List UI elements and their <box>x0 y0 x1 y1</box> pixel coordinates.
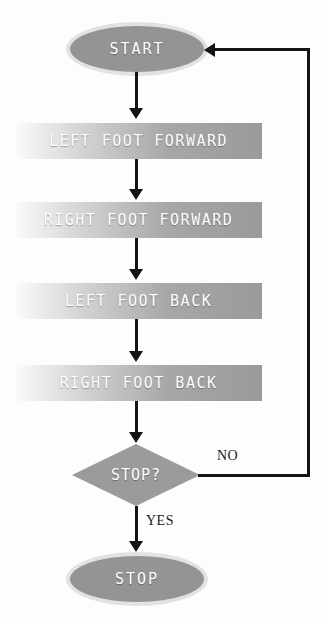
edge-step4-to-decision-arrow <box>129 432 143 443</box>
edge-start-to-step1-line <box>135 72 138 110</box>
node-decision[interactable]: STOP? <box>72 444 200 506</box>
edge-step2-to-step3-arrow <box>129 269 143 280</box>
node-decision-label: STOP? <box>111 466 161 484</box>
node-step1-label: LEFT FOOT FORWARD <box>49 132 228 150</box>
flowchart-canvas: START LEFT FOOT FORWARD RIGHT FOOT FORWA… <box>0 0 326 623</box>
edge-yes-line <box>135 506 138 543</box>
edge-no-horizontal-top <box>215 48 310 51</box>
node-step3[interactable]: LEFT FOOT BACK <box>15 283 262 319</box>
node-start-label: START <box>109 40 164 58</box>
node-step4[interactable]: RIGHT FOOT BACK <box>15 365 262 401</box>
edge-no-vertical <box>307 48 310 477</box>
edge-step3-to-step4-arrow <box>129 351 143 362</box>
edge-step4-to-decision-line <box>135 401 138 434</box>
edge-label-yes: YES <box>146 513 174 529</box>
node-step2-label: RIGHT FOOT FORWARD <box>44 211 234 229</box>
node-step3-label: LEFT FOOT BACK <box>65 292 212 310</box>
edge-no-horizontal-bottom <box>198 474 310 477</box>
edge-step3-to-step4-line <box>135 319 138 353</box>
edge-yes-arrow <box>129 541 143 552</box>
edge-no-arrow <box>204 43 215 57</box>
edge-step1-to-step2-arrow <box>129 189 143 200</box>
node-step4-label: RIGHT FOOT BACK <box>60 374 218 392</box>
node-step1[interactable]: LEFT FOOT FORWARD <box>15 123 262 159</box>
node-end[interactable]: STOP <box>70 556 204 602</box>
node-step2[interactable]: RIGHT FOOT FORWARD <box>15 202 262 238</box>
edge-step1-to-step2-line <box>135 159 138 192</box>
node-end-label: STOP <box>115 570 159 588</box>
edge-start-to-step1-arrow <box>129 108 143 119</box>
edge-label-no: NO <box>217 448 238 464</box>
node-start[interactable]: START <box>70 26 204 72</box>
edge-step2-to-step3-line <box>135 238 138 271</box>
